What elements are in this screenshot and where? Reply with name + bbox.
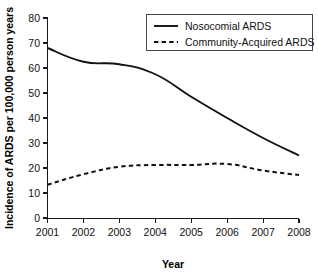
x-tick-label: 2002 xyxy=(72,226,96,238)
legend-label-2: Community-Acquired ARDS xyxy=(185,36,315,48)
y-tick-label: 30 xyxy=(28,137,40,149)
legend-label-1: Nosocomial ARDS xyxy=(185,20,271,32)
x-axis: 20012002200320042005200620072008 Year xyxy=(36,219,311,271)
x-tick-label: 2005 xyxy=(180,226,204,238)
chart-legend: Nosocomial ARDSCommunity-Acquired ARDS xyxy=(146,14,315,50)
x-tick-label: 2006 xyxy=(215,226,239,238)
chart-figure: 01020304050607080 Incidence of ARDS per … xyxy=(0,0,318,275)
y-tick-label: 70 xyxy=(28,37,40,49)
x-axis-title: Year xyxy=(162,258,184,270)
series-line-1 xyxy=(48,48,300,156)
x-tick-label: 2001 xyxy=(36,226,60,238)
y-tick-label: 10 xyxy=(28,187,40,199)
line-chart: 01020304050607080 Incidence of ARDS per … xyxy=(0,0,318,275)
data-series-group xyxy=(48,48,300,185)
y-tick-label: 0 xyxy=(34,212,40,224)
y-tick-label: 60 xyxy=(28,62,40,74)
y-tick-label: 40 xyxy=(28,112,40,124)
series-line-2 xyxy=(48,164,300,185)
x-tick-label: 2003 xyxy=(108,226,132,238)
x-axis-ticks: 20012002200320042005200620072008 xyxy=(36,219,311,239)
x-tick-label: 2004 xyxy=(144,226,168,238)
y-tick-label: 50 xyxy=(28,87,40,99)
y-axis: 01020304050607080 Incidence of ARDS per … xyxy=(3,7,48,229)
y-axis-title: Incidence of ARDS per 100,000 person yea… xyxy=(3,7,15,229)
y-tick-label: 20 xyxy=(28,162,40,174)
y-tick-label: 80 xyxy=(28,12,40,24)
y-axis-ticks: 01020304050607080 xyxy=(28,12,47,224)
x-tick-label: 2008 xyxy=(287,226,311,238)
x-tick-label: 2007 xyxy=(251,226,275,238)
